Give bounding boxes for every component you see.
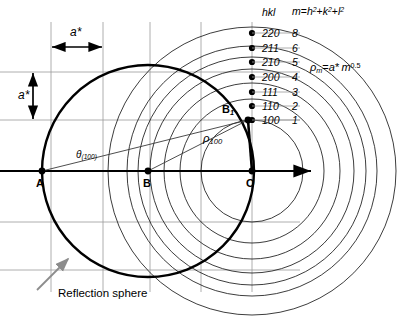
point-A-marker xyxy=(39,168,46,175)
theta-100-label: θ(100) xyxy=(76,150,97,161)
astar-horizontal-label: a* xyxy=(70,26,81,38)
reflection-sphere-caption: Reflection sphere xyxy=(58,288,148,300)
m-value-3: 4 xyxy=(292,71,298,83)
astar-vertical-label: a* xyxy=(18,89,29,101)
hkl-column-header: hkl xyxy=(262,6,275,18)
hkl-label-2: 210 xyxy=(262,56,280,68)
point-O-label: O xyxy=(246,177,255,189)
m-value-1: 6 xyxy=(292,42,298,54)
key-point-markers xyxy=(39,117,256,175)
point-B-label: B xyxy=(143,177,151,189)
rho-symbol: ρ xyxy=(203,132,210,144)
m-value-0: 8 xyxy=(292,27,298,39)
point-O-marker xyxy=(249,168,256,175)
rho-subscript: 100 xyxy=(210,137,223,146)
hkl-label-3: 200 xyxy=(262,71,280,83)
hkl-label-5: 110 xyxy=(262,100,279,112)
rho-m-formula: ρm=a* m0.5 xyxy=(310,62,361,74)
point-B1-marker xyxy=(245,117,252,124)
point-B1-letter: B xyxy=(222,103,230,115)
m-value-6: 1 xyxy=(292,114,298,126)
m-value-4: 3 xyxy=(292,86,298,98)
point-B-marker xyxy=(145,168,152,175)
rho-100-label: ρ100 xyxy=(203,133,222,145)
point-B1-subscript: 1 xyxy=(230,108,234,117)
m-formula-header: m=h2+k2+l2 xyxy=(292,6,344,17)
diagram-canvas: a* a* A B O B1 θ(100) ρ100 hkl m=h2+k2+l… xyxy=(0,0,403,317)
hkl-label-6: 100 xyxy=(262,114,280,126)
point-A-label: A xyxy=(36,177,44,189)
hkl-label-1: 211 xyxy=(262,42,279,54)
m-value-2: 5 xyxy=(292,56,298,68)
radius-ray-B-B1 xyxy=(148,120,248,171)
reflection-sphere-callout-arrow xyxy=(37,259,68,290)
hkl-label-4: 111 xyxy=(262,86,278,98)
theta-subscript: (100) xyxy=(81,153,96,160)
hkl-label-0: 220 xyxy=(262,27,280,39)
point-B1-label: B1 xyxy=(222,104,234,116)
m-value-5: 2 xyxy=(292,100,298,112)
diagram-vector-layer xyxy=(0,0,403,317)
